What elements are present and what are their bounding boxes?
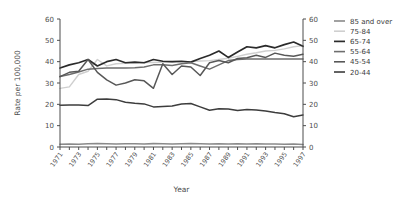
plot-area xyxy=(60,42,303,144)
series-line-85-and-over xyxy=(60,144,303,145)
y-tick-label-right: 10 xyxy=(309,122,318,130)
y-tick-label-right: 30 xyxy=(309,80,318,88)
y-tick-label-right: 40 xyxy=(309,58,318,66)
legend-label-65-74[interactable]: 65-74 xyxy=(350,38,371,46)
x-tick-label: 1995 xyxy=(273,151,289,169)
series-line-20-44 xyxy=(60,99,303,117)
legend-label-45-54[interactable]: 45-54 xyxy=(350,58,371,66)
y-tick-label-left: 10 xyxy=(45,122,54,130)
chart-svg: 0010102020303040405050606019711973197519… xyxy=(0,0,405,202)
y-tick-label-left: 0 xyxy=(50,144,54,152)
x-tick-label: 1989 xyxy=(217,151,233,169)
legend-label-75-84[interactable]: 75-84 xyxy=(350,28,371,36)
x-tick-label: 1985 xyxy=(179,151,195,169)
y-tick-label-right: 50 xyxy=(309,37,318,45)
y-tick-label-right: 0 xyxy=(309,144,313,152)
x-axis-title: Year xyxy=(173,185,191,194)
legend-label-55-64[interactable]: 55-64 xyxy=(350,48,371,56)
x-tick-label: 1979 xyxy=(123,151,139,169)
series-line-75-84 xyxy=(60,46,303,89)
x-tick-label: 1983 xyxy=(161,151,177,169)
x-tick-label: 1975 xyxy=(86,151,102,169)
axes xyxy=(57,19,306,150)
y-axis-title: Rate per 100,000 xyxy=(13,50,22,116)
x-tick-label: 1971 xyxy=(49,151,65,169)
y-tick-label-left: 50 xyxy=(45,37,54,45)
x-tick-label: 1991 xyxy=(236,151,252,169)
x-tick-label: 1977 xyxy=(105,151,121,169)
x-tick-label: 1987 xyxy=(198,151,214,169)
line-chart: 0010102020303040405050606019711973197519… xyxy=(0,0,405,202)
y-tick-label-left: 60 xyxy=(45,16,54,24)
y-tick-label-left: 20 xyxy=(45,101,54,109)
x-tick-label: 1973 xyxy=(67,151,83,169)
y-tick-label-right: 20 xyxy=(309,101,318,109)
x-tick-label: 1993 xyxy=(254,151,270,169)
x-tick-label: 1981 xyxy=(142,151,158,169)
legend-label-85-and-over[interactable]: 85 and over xyxy=(350,18,392,26)
y-tick-label-right: 60 xyxy=(309,16,318,24)
x-tick-label: 1997 xyxy=(292,151,308,169)
y-tick-label-left: 40 xyxy=(45,58,54,66)
legend-label-20-44[interactable]: 20-44 xyxy=(350,69,371,77)
chart-legend[interactable]: 85 and over75-8465-7455-6445-5420-44 xyxy=(334,18,392,77)
y-tick-label-left: 30 xyxy=(45,80,54,88)
